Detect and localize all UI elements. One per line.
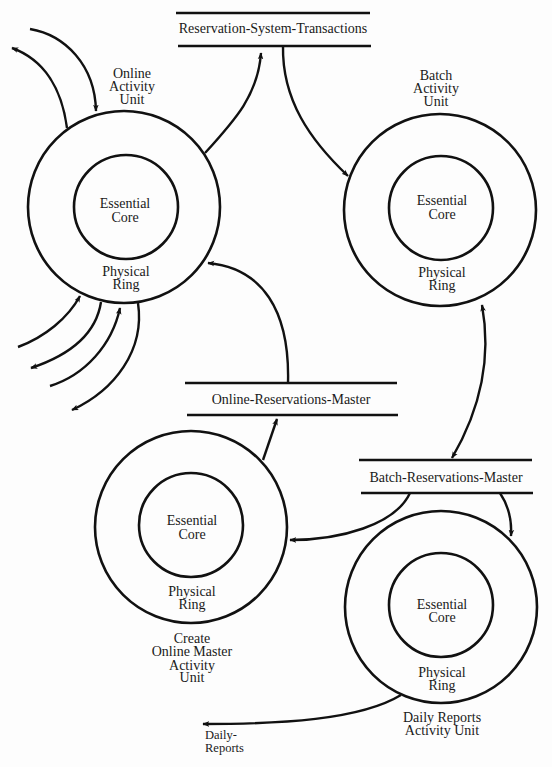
ring-label: Ring [112, 277, 139, 292]
online-to-transactions-arrow [205, 53, 261, 153]
data-store-online-reservations-master: Online-Reservations-Master [185, 383, 398, 415]
activity-unit-create-online-master: Essential Core Physical Ring Create Onli… [95, 431, 287, 685]
store-label: Batch-Reservations-Master [369, 470, 523, 485]
batch-master-to-daily-arrow [500, 493, 511, 536]
unit-name-line: Online Master [152, 644, 233, 659]
daily-reports-output-arrow [203, 695, 401, 724]
batch-master-to-create-arrow [290, 493, 410, 540]
external-output-arrow [12, 48, 67, 128]
unit-name-line: Unit [120, 92, 145, 107]
core-label: Core [428, 207, 455, 222]
data-store-batch-reservations-master: Batch-Reservations-Master [359, 460, 533, 493]
unit-name-line: Activity Unit [405, 723, 479, 738]
unit-name-line: Unit [180, 670, 205, 685]
output-label-line: Reports [205, 741, 244, 755]
store-label: Reservation-System-Transactions [179, 21, 367, 36]
batch-master-bidirectional-arrow [452, 305, 485, 458]
core-label: Core [428, 610, 455, 625]
create-to-online-master-arrow [263, 419, 277, 460]
core-label: Core [111, 210, 138, 225]
ring-label: Ring [428, 678, 455, 693]
daily-reports-output-label: Daily- Reports [205, 728, 244, 755]
online-master-to-online-arrow [208, 263, 288, 383]
external-input-arrow [30, 29, 96, 111]
activity-unit-diagram: Reservation-System-Transactions Online-R… [0, 0, 552, 767]
external-input-arrow [18, 296, 80, 347]
activity-unit-batch: Batch Activity Unit Essential Core Physi… [344, 68, 536, 306]
transactions-to-batch-arrow [283, 46, 348, 176]
store-label: Online-Reservations-Master [212, 392, 371, 407]
core-label: Essential [167, 513, 218, 528]
ring-label: Ring [178, 597, 205, 612]
ring-label: Ring [428, 278, 455, 293]
data-store-reservation-system-transactions: Reservation-System-Transactions [176, 13, 371, 46]
core-label: Essential [417, 193, 468, 208]
output-label-line: Daily- [205, 728, 237, 742]
activity-unit-online: Online Activity Unit Essential Core Phys… [28, 66, 220, 303]
core-label: Core [178, 527, 205, 542]
external-output-arrow [72, 303, 139, 410]
core-label: Essential [100, 196, 151, 211]
unit-name-line: Unit [424, 94, 449, 109]
activity-unit-daily-reports: Essential Core Physical Ring Daily Repor… [345, 511, 537, 738]
